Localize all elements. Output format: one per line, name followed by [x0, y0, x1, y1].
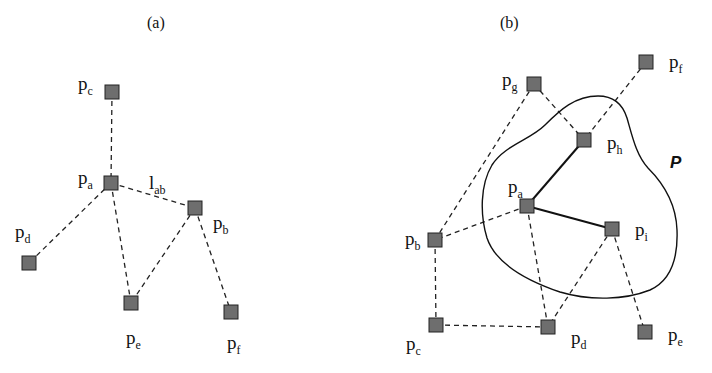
node-a-pd	[22, 256, 36, 270]
panel-b-edges	[435, 62, 646, 332]
label-b-pg-subscript: g	[512, 80, 518, 94]
region-p-label: P	[670, 153, 681, 173]
edge-label-lab: lab	[149, 173, 166, 196]
node-b-pc	[429, 318, 443, 332]
label-a-pc-subscript: c	[88, 84, 93, 98]
label-a-pe-subscript: e	[136, 338, 141, 352]
label-b-pf-base: p	[669, 51, 679, 72]
node-b-ph	[577, 133, 591, 147]
edge-pa-pd	[527, 206, 548, 327]
label-b-pa-base: p	[508, 176, 518, 197]
label-b-pb-subscript: b	[415, 239, 421, 253]
panel-b-title: (b)	[500, 14, 519, 32]
edge-pb-pe	[131, 208, 195, 303]
label-a-pa-subscript: a	[88, 178, 93, 192]
label-b-pb: pb	[405, 229, 421, 252]
edge-pc-pa	[111, 92, 112, 183]
label-a-pc: pc	[78, 74, 93, 97]
label-a-pb: pb	[213, 213, 229, 236]
label-b-pd-base: p	[571, 327, 581, 348]
label-b-pd-subscript: d	[581, 338, 587, 352]
label-b-pf-subscript: f	[679, 62, 683, 76]
label-b-ph-base: p	[607, 132, 617, 153]
label-b-pi-base: p	[635, 219, 645, 240]
label-a-pb-base: p	[213, 212, 223, 233]
label-b-pe-subscript: e	[678, 335, 683, 349]
edge-pb-pc	[435, 240, 436, 325]
label-b-pb-base: p	[405, 228, 415, 249]
label-b-pf: pf	[669, 52, 683, 75]
label-a-pf: pf	[227, 333, 241, 356]
label-a-pf-subscript: f	[237, 343, 241, 357]
label-a-pe: pe	[126, 328, 141, 351]
label-a-pc-base: p	[78, 73, 88, 94]
edge-pc-pd	[436, 325, 548, 327]
edge-pi-pe	[612, 229, 645, 332]
label-a-pa: pa	[78, 168, 93, 191]
node-a-pb	[188, 201, 202, 215]
label-b-ph-subscript: h	[617, 143, 623, 157]
edge-pg-pb	[435, 84, 534, 240]
node-a-pa	[104, 176, 118, 190]
label-a-pa-base: p	[78, 167, 88, 188]
label-b-pe: pe	[668, 325, 683, 348]
edge-pa-pe	[111, 183, 131, 303]
label-b-pd: pd	[571, 328, 587, 351]
label-b-pe-base: p	[668, 324, 678, 345]
edge-pa-pb	[435, 206, 527, 240]
label-a-pd: pd	[15, 222, 31, 245]
node-b-pf	[639, 55, 653, 69]
label-a-pe-base: p	[126, 327, 136, 348]
label-a-pf-base: p	[227, 332, 237, 353]
label-b-pc-subscript: c	[416, 344, 421, 358]
edge-pa-pi	[527, 206, 612, 229]
label-b-pg: pg	[502, 70, 518, 93]
panel-a-title: (a)	[147, 14, 165, 32]
node-b-pb	[428, 233, 442, 247]
diagram-canvas	[0, 0, 712, 373]
panel-a-nodes	[22, 85, 238, 319]
label-a-pd-base: p	[15, 221, 25, 242]
edge-pa-pd	[29, 183, 111, 263]
label-b-pi: pi	[635, 220, 648, 243]
panel-b-nodes	[428, 55, 653, 339]
label-b-ph: ph	[607, 133, 623, 156]
label-a-pb-subscript: b	[223, 223, 229, 237]
label-b-pa: pa	[508, 177, 523, 200]
edge-pi-pd	[548, 229, 612, 327]
node-b-pi	[605, 222, 619, 236]
node-a-pf	[224, 305, 238, 319]
node-a-pc	[105, 85, 119, 99]
label-b-pi-subscript: i	[645, 230, 648, 244]
node-a-pe	[124, 296, 138, 310]
node-b-pd	[541, 320, 555, 334]
node-b-pg	[527, 77, 541, 91]
node-b-pa	[520, 199, 534, 213]
edge-ph-pa	[527, 140, 584, 206]
label-b-pc-base: p	[406, 333, 416, 354]
label-a-pd-subscript: d	[25, 232, 31, 246]
edge-label-lab-subscript: ab	[154, 183, 165, 197]
node-b-pe	[638, 325, 652, 339]
label-b-pg-base: p	[502, 69, 512, 90]
label-b-pc: pc	[406, 334, 421, 357]
label-b-pa-subscript: a	[518, 187, 523, 201]
